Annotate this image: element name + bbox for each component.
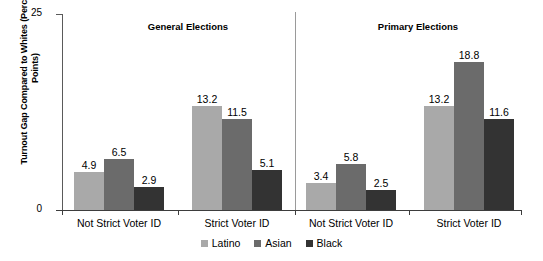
bar-primary-strict-black (484, 119, 514, 210)
x-tick-panel2-mid (409, 210, 410, 215)
panel-title-primary: Primary Elections (348, 21, 488, 32)
legend-swatch-asian-icon (254, 240, 261, 247)
legend-item-latino: Latino (201, 238, 241, 249)
bar-chart: Turnout Gap Compared to Whites (Percenta… (0, 0, 543, 261)
bar-value-general-notstrict-asian: 6.5 (104, 147, 134, 158)
y-tick-label-25: 25 (0, 8, 50, 18)
bar-general-strict-latino (192, 106, 222, 210)
legend-item-black: Black (306, 238, 343, 249)
group-label-general-strict: Strict Voter ID (177, 217, 297, 229)
bar-general-strict-asian (222, 119, 252, 210)
x-tick-panel-divider (295, 210, 296, 215)
bar-value-primary-notstrict-latino: 3.4 (306, 171, 336, 182)
x-tick-left-edge (62, 210, 63, 215)
bar-value-primary-strict-black: 11.6 (484, 107, 514, 118)
legend-swatch-latino-icon (201, 240, 208, 247)
group-label-general-notstrict: Not Strict Voter ID (59, 217, 179, 229)
bar-general-strict-black (252, 170, 282, 210)
bar-value-primary-notstrict-asian: 5.8 (336, 152, 366, 163)
bar-primary-notstrict-black (366, 190, 396, 210)
bar-general-notstrict-latino (74, 172, 104, 210)
bar-value-general-notstrict-latino: 4.9 (74, 160, 104, 171)
bar-general-notstrict-asian (104, 159, 134, 210)
y-axis-line (62, 14, 63, 211)
bar-value-general-strict-latino: 13.2 (192, 94, 222, 105)
bar-value-general-strict-black: 5.1 (252, 158, 282, 169)
bar-primary-notstrict-latino (306, 183, 336, 210)
bar-primary-notstrict-asian (336, 164, 366, 210)
y-tick-label-0: 0 (0, 204, 50, 214)
y-axis-title: Turnout Gap Compared to Whites (Percenta… (19, 0, 41, 168)
legend: Latino Asian Black (0, 238, 543, 249)
legend-label-latino: Latino (212, 238, 241, 249)
bar-value-general-strict-asian: 11.5 (222, 107, 252, 118)
bar-primary-strict-asian (454, 62, 484, 210)
panel-title-general: General Elections (118, 21, 258, 32)
legend-swatch-black-icon (306, 240, 313, 247)
bar-value-primary-strict-latino: 13.2 (424, 94, 454, 105)
bar-value-general-notstrict-black: 2.9 (134, 175, 164, 186)
legend-label-asian: Asian (265, 238, 291, 249)
group-label-primary-notstrict: Not Strict Voter ID (291, 217, 411, 229)
bar-primary-strict-latino (424, 106, 454, 210)
panel-divider (295, 12, 296, 210)
legend-label-black: Black (317, 238, 343, 249)
legend-item-asian: Asian (254, 238, 291, 249)
x-axis-baseline (56, 210, 522, 211)
bar-value-primary-strict-asian: 18.8 (454, 50, 484, 61)
x-tick-right-edge (521, 210, 522, 215)
x-tick-panel1-mid (178, 210, 179, 215)
group-label-primary-strict: Strict Voter ID (409, 217, 529, 229)
y-tick-25 (56, 14, 62, 15)
bar-general-notstrict-black (134, 187, 164, 210)
bar-value-primary-notstrict-black: 2.5 (366, 178, 396, 189)
